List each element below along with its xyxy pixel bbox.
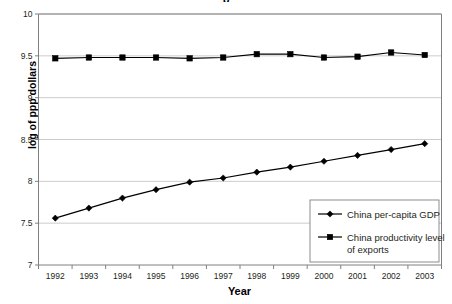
- data-point-diamond: [254, 169, 260, 175]
- data-point-square: [221, 55, 226, 60]
- y-tick-label: 10: [23, 9, 33, 19]
- data-point-diamond: [287, 164, 293, 170]
- data-point-square: [321, 55, 326, 60]
- data-point-square: [86, 55, 91, 60]
- legend-label: China productivity level: [347, 232, 445, 243]
- data-point-square: [53, 56, 58, 61]
- x-tick-label: 1998: [247, 271, 266, 281]
- y-tick-label: 9: [28, 93, 33, 103]
- data-point-square: [388, 50, 393, 55]
- y-tick-label: 8.5: [21, 135, 33, 145]
- x-tick-label: 2002: [382, 271, 401, 281]
- plot-area: 77.588.599.510 1992199319941995199619971…: [0, 0, 452, 304]
- data-point-diamond: [52, 215, 58, 221]
- data-point-square: [355, 54, 360, 59]
- data-point-diamond: [153, 187, 159, 193]
- data-point-diamond: [422, 141, 428, 147]
- x-tick-labels: 1992199319941995199619971998199920002001…: [46, 271, 435, 281]
- y-tick-marks: [35, 14, 39, 265]
- series-2: [53, 50, 428, 61]
- data-point-square: [187, 56, 192, 61]
- data-point-square: [288, 51, 293, 56]
- legend-label: China per-capita GDP: [347, 209, 440, 220]
- data-point-diamond: [220, 175, 226, 181]
- data-point-diamond: [321, 158, 327, 164]
- legend-label: of exports: [347, 244, 389, 255]
- data-point-diamond: [86, 205, 92, 211]
- gridlines: [39, 14, 442, 223]
- data-point-diamond: [388, 146, 394, 152]
- x-tick-label: 2001: [348, 271, 367, 281]
- data-point-square: [422, 52, 427, 57]
- y-tick-labels: 77.588.599.510: [21, 9, 33, 270]
- data-series: [52, 50, 428, 221]
- chart-legend: China per-capita GDPChina productivity l…: [310, 200, 445, 262]
- data-point-diamond: [119, 195, 125, 201]
- x-tick-label: 2000: [314, 271, 333, 281]
- x-tick-label: 1999: [281, 271, 300, 281]
- x-tick-label: 1996: [180, 271, 199, 281]
- x-tick-label: 1993: [79, 271, 98, 281]
- series-line: [55, 52, 424, 58]
- data-point-square: [120, 55, 125, 60]
- x-tick-label: 1994: [113, 271, 132, 281]
- x-tick-label: 1997: [214, 271, 233, 281]
- data-point-square: [254, 51, 259, 56]
- y-tick-label: 7.5: [21, 218, 33, 228]
- x-tick-label: 1992: [46, 271, 65, 281]
- data-point-square: [327, 234, 332, 239]
- x-tick-marks: [39, 265, 442, 269]
- x-tick-label: 1995: [147, 271, 166, 281]
- y-tick-label: 9.5: [21, 51, 33, 61]
- y-tick-label: 8: [28, 176, 33, 186]
- chart-container: p log of ppp dollars Year 77.588.599.510…: [0, 0, 452, 304]
- data-point-diamond: [354, 152, 360, 158]
- x-tick-label: 2003: [415, 271, 434, 281]
- data-point-diamond: [187, 179, 193, 185]
- y-tick-label: 7: [28, 260, 33, 270]
- data-point-square: [153, 55, 158, 60]
